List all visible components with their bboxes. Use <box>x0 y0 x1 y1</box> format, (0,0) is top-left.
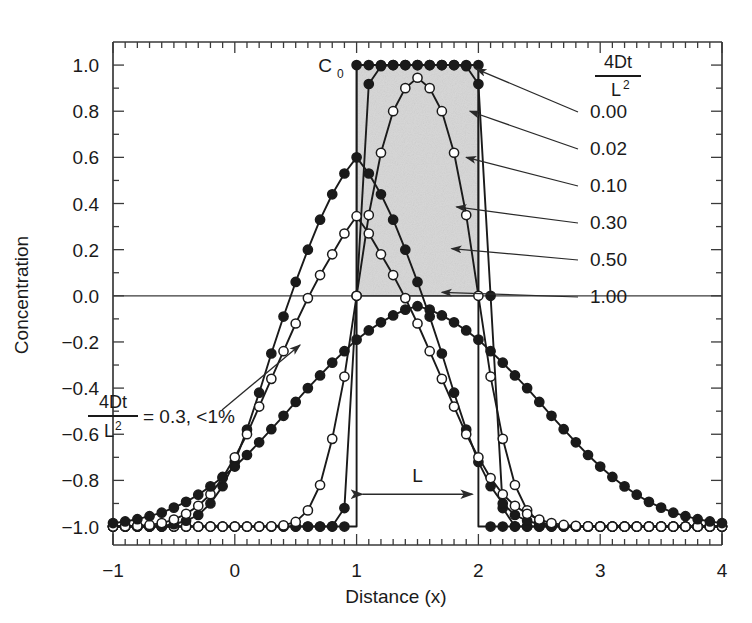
legend-entry-label: 0.30 <box>590 212 627 233</box>
data-point-marker <box>376 148 385 157</box>
y-tick-label: 0.8 <box>73 101 99 122</box>
data-point-marker <box>620 482 629 491</box>
data-point-marker <box>352 153 361 162</box>
span-length-label: L <box>412 465 423 486</box>
data-point-marker <box>206 482 215 491</box>
data-point-marker <box>303 506 312 515</box>
data-point-marker <box>498 499 507 508</box>
data-point-marker <box>291 277 300 286</box>
legend-entry-label: 0.00 <box>590 101 627 122</box>
data-point-marker <box>449 388 458 397</box>
data-point-marker <box>169 515 178 524</box>
legend-title-denominator-exponent: 2 <box>623 78 630 92</box>
data-point-marker <box>401 294 410 303</box>
data-point-marker <box>352 60 361 69</box>
data-point-marker <box>364 60 373 69</box>
y-tick-label: −0.4 <box>61 378 99 399</box>
data-point-marker <box>510 480 519 489</box>
x-tick-label: 2 <box>473 560 484 581</box>
data-point-marker <box>437 60 446 69</box>
data-point-marker <box>462 430 471 439</box>
data-point-marker <box>389 311 398 320</box>
data-point-marker <box>498 434 507 443</box>
data-point-marker <box>486 522 495 531</box>
data-point-marker <box>340 503 349 512</box>
data-point-marker <box>242 430 251 439</box>
data-point-marker <box>401 84 410 93</box>
data-point-marker <box>279 312 288 321</box>
data-point-marker <box>608 472 617 481</box>
data-point-marker <box>657 503 666 512</box>
legend-title-numerator: 4Dt <box>604 52 632 72</box>
data-point-marker <box>328 250 337 259</box>
data-point-marker <box>510 501 519 510</box>
data-point-marker <box>194 501 203 510</box>
data-point-marker <box>510 371 519 380</box>
y-tick-label: −0.8 <box>61 470 99 491</box>
data-point-marker <box>267 522 276 531</box>
data-point-marker <box>340 372 349 381</box>
data-point-marker <box>474 291 483 300</box>
data-point-marker <box>255 522 264 531</box>
data-point-marker <box>181 509 190 518</box>
data-point-marker <box>340 522 349 531</box>
data-point-marker <box>474 60 483 69</box>
data-point-marker <box>498 522 507 531</box>
data-point-marker <box>328 358 337 367</box>
data-point-marker <box>462 326 471 335</box>
data-point-marker <box>486 473 495 482</box>
data-point-marker <box>596 462 605 471</box>
data-point-marker <box>583 522 592 531</box>
data-point-marker <box>437 311 446 320</box>
data-point-marker <box>413 277 422 286</box>
c0-subscript: 0 <box>337 67 344 81</box>
data-point-marker <box>157 508 166 517</box>
data-point-marker <box>571 438 580 447</box>
data-point-marker <box>291 319 300 328</box>
data-point-marker <box>717 518 726 527</box>
x-tick-label: 4 <box>717 560 728 581</box>
data-point-marker <box>328 434 337 443</box>
y-tick-label: 0.2 <box>73 240 99 261</box>
data-point-marker <box>523 384 532 393</box>
data-point-marker <box>523 509 532 518</box>
data-point-marker <box>510 522 519 531</box>
data-point-marker <box>376 318 385 327</box>
data-point-marker <box>693 515 702 524</box>
y-tick-label: −0.2 <box>61 332 99 353</box>
data-point-marker <box>657 522 666 531</box>
data-point-marker <box>681 512 690 521</box>
data-point-marker <box>401 305 410 314</box>
legend-entry-label: 0.50 <box>590 249 627 270</box>
data-point-marker <box>498 358 507 367</box>
data-point-marker <box>255 438 264 447</box>
data-point-marker <box>364 169 373 178</box>
data-point-marker <box>389 107 398 116</box>
data-point-marker <box>242 522 251 531</box>
data-point-marker <box>413 319 422 328</box>
data-point-marker <box>230 522 239 531</box>
data-point-marker <box>364 229 373 238</box>
data-point-marker <box>547 518 556 527</box>
data-point-marker <box>218 472 227 481</box>
data-point-marker <box>449 148 458 157</box>
data-point-marker <box>620 522 629 531</box>
data-point-marker <box>145 512 154 521</box>
data-point-marker <box>315 270 324 279</box>
y-tick-label: −1.0 <box>61 517 99 538</box>
data-point-marker <box>425 305 434 314</box>
data-point-marker <box>194 510 203 519</box>
data-point-marker <box>303 384 312 393</box>
y-axis-title: Concentration <box>11 236 32 354</box>
y-tick-label: 0.6 <box>73 147 99 168</box>
data-point-marker <box>352 335 361 344</box>
data-point-marker <box>315 522 324 531</box>
data-point-marker <box>218 522 227 531</box>
data-point-marker <box>303 294 312 303</box>
data-point-marker <box>437 107 446 116</box>
data-point-marker <box>669 508 678 517</box>
legend-entry-label: 0.10 <box>590 175 627 196</box>
data-point-marker <box>230 462 239 471</box>
data-point-marker <box>364 210 373 219</box>
data-point-marker <box>474 335 483 344</box>
